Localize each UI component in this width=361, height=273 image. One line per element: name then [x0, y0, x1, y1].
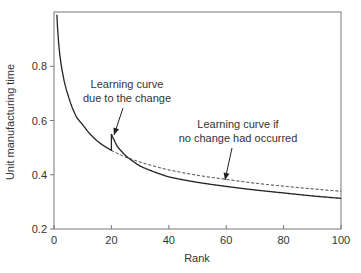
arrowhead-icon [113, 127, 119, 135]
x-tick-label: 100 [332, 234, 350, 246]
annotations: Learning curvedue to the changeLearning … [83, 78, 297, 180]
annotation-label: Learning curve if [197, 118, 279, 130]
y-tick-label: 0.8 [32, 60, 47, 72]
x-axis-ticks: 020406080100 [51, 225, 350, 246]
y-tick-label: 0.4 [32, 169, 47, 181]
x-tick-label: 0 [51, 234, 57, 246]
x-tick-label: 80 [277, 234, 289, 246]
learning-curve-chart: 0.20.40.60.8 020406080100 Learning curve… [0, 0, 361, 273]
annotation-label: due to the change [83, 92, 171, 104]
annotation-label: Learning curve [91, 78, 164, 90]
x-axis-label: Rank [184, 252, 210, 264]
no-change-curve [111, 150, 341, 191]
change-curve [57, 15, 341, 199]
y-tick-label: 0.6 [32, 115, 47, 127]
y-axis-ticks: 0.20.40.60.8 [32, 60, 54, 235]
y-tick-label: 0.2 [32, 223, 47, 235]
annotation-label: no change had occurred [179, 132, 298, 144]
x-tick-label: 40 [163, 234, 175, 246]
y-axis-label: Unit manufacturing time [4, 64, 16, 180]
x-tick-label: 60 [220, 234, 232, 246]
x-tick-label: 20 [105, 234, 117, 246]
data-series [57, 15, 341, 199]
